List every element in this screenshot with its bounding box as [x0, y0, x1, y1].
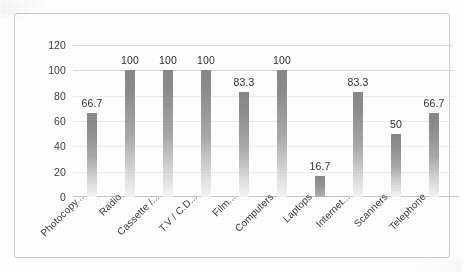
y-axis-tick-120: 120: [48, 39, 66, 51]
bar-slot: 50: [377, 45, 415, 197]
bar[interactable]: 66.7: [87, 113, 97, 197]
scan-artifact-bottom-right: [392, 258, 462, 272]
bar-value-label: 83.3: [348, 76, 369, 88]
y-axis-tick-100: 100: [48, 64, 66, 76]
x-axis-label-radio: Radio: [97, 191, 124, 218]
bar-value-label: 100: [121, 54, 139, 66]
x-axis-category-labels: Photocopy... Radio Cassette /... T.V / C…: [59, 189, 439, 255]
bar-value-label: 16.7: [310, 160, 331, 172]
bar[interactable]: 66.7: [429, 113, 439, 197]
x-axis-label-film: Film...: [210, 191, 238, 219]
bar-slot: 66.7: [73, 45, 111, 197]
bar-slot: 16.7: [301, 45, 339, 197]
bar-slot: 100: [149, 45, 187, 197]
y-axis-tick-40: 40: [54, 140, 66, 152]
bar[interactable]: 100: [201, 70, 211, 197]
bar-value-label: 66.7: [82, 97, 103, 109]
bar-value-label: 50: [390, 118, 402, 130]
bar-value-label: 100: [273, 54, 291, 66]
bar[interactable]: 83.3: [353, 92, 363, 198]
bar[interactable]: 83.3: [239, 92, 249, 198]
y-axis-tick-60: 60: [54, 115, 66, 127]
bar[interactable]: 50: [391, 134, 401, 197]
bar-slot: 83.3: [225, 45, 263, 197]
bar[interactable]: 100: [277, 70, 287, 197]
plot-area: 120 100 80 60 40 20 0 66.7 100 100: [73, 45, 453, 197]
bar-value-label: 100: [197, 54, 215, 66]
bar-slot: 100: [263, 45, 301, 197]
bar-slot: 100: [187, 45, 225, 197]
bar-value-label: 66.7: [424, 97, 445, 109]
chart-frame: 120 100 80 60 40 20 0 66.7 100 100: [14, 13, 450, 258]
bar-value-label: 83.3: [234, 76, 255, 88]
x-axis-label-photocopy: Photocopy...: [38, 191, 85, 238]
cat-slot: Photocopy...: [59, 189, 97, 255]
bar-series: 66.7 100 100 100 83.3: [73, 45, 453, 197]
bar-value-label: 100: [159, 54, 177, 66]
bar[interactable]: 100: [163, 70, 173, 197]
bar-slot: 83.3: [339, 45, 377, 197]
bar-slot: 100: [111, 45, 149, 197]
cat-slot: Telephone: [401, 189, 439, 255]
y-axis-tick-20: 20: [54, 166, 66, 178]
y-axis-tick-80: 80: [54, 90, 66, 102]
cat-slot: Computers: [249, 189, 287, 255]
bar[interactable]: 100: [125, 70, 135, 197]
cat-slot: T.V / C.D...: [173, 189, 211, 255]
bar-slot: 66.7: [415, 45, 453, 197]
